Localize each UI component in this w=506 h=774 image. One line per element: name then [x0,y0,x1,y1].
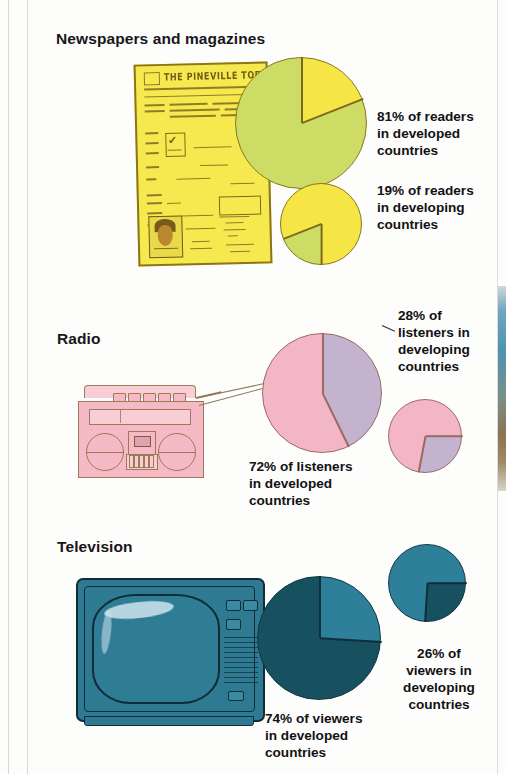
radio-transport-key[interactable] [149,455,154,468]
leader-tick-28-percent [382,325,395,332]
television-main-pie [257,576,381,700]
radio-inset-pie [388,399,462,473]
tv-knob-button[interactable] [243,600,258,611]
tv-knob-button[interactable] [226,619,241,630]
newspaper-check-mark: ✓ [168,135,177,146]
pie-spoke-end [320,637,382,642]
section-television: Television [0,530,506,774]
callout-radio-developing: 28% of listeners in developing countries [398,307,470,376]
newspapers-main-pie [235,57,367,189]
pie-spoke-start [428,582,467,584]
tv-power-button[interactable] [228,691,244,701]
tv-base [84,716,254,726]
section-title-radio: Radio [57,330,101,348]
pie-spoke-end [283,223,322,240]
pie-spoke-start [321,224,323,265]
section-title-newspapers: Newspapers and magazines [56,30,265,48]
pie-spoke-end [425,583,429,622]
radio-speaker-left [86,433,124,471]
newspapers-inset-pie [280,183,362,265]
callout-television-developing: 26% of viewers in developing countries [386,645,492,714]
radio-tuner-display [89,409,191,425]
radio-speaker-right [158,433,196,471]
section-newspapers: Newspapers and magazines THE PINEVILLE T… [0,0,506,285]
pie-spoke-start [319,576,321,638]
newspaper-portrait-photo [148,216,183,259]
callout-newspapers-developed: 81% of readers in developed countries [377,108,474,159]
pie-spoke-start [301,57,303,123]
callout-television-developed: 74% of viewers in developed countries [265,710,362,761]
radio-main-pie [262,333,382,453]
pie-spoke-end [322,393,350,448]
callout-newspapers-developing: 19% of readers in developing countries [377,182,474,233]
television-inset-pie [388,544,466,622]
tv-knob-button[interactable] [226,600,241,611]
callout-radio-developed: 72% of listeners in developed countries [249,458,353,509]
pie-spoke-end [302,98,364,124]
pie-spoke-start [426,435,463,437]
tv-screen-glare [103,598,174,621]
tv-screen [92,594,220,704]
pie-spoke-start [322,333,324,393]
section-title-television: Television [57,538,133,556]
infographic-page: Newspapers and magazines THE PINEVILLE T… [0,0,506,774]
tv-screen-glare-edge [100,610,114,655]
section-radio: Radio [0,285,506,530]
newspaper-ad-box [219,196,261,216]
pie-spoke-end [418,436,426,473]
radio-cassette-tape [134,436,151,447]
